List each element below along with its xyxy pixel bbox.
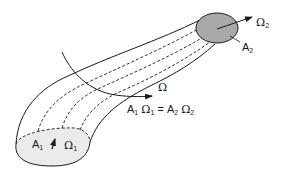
equation-label: A1 Ω1 = A2 Ω2 [127, 104, 194, 116]
streamline-3 [80, 42, 210, 130]
a2-label: A2 [242, 42, 253, 54]
flux-tube-diagram [0, 0, 285, 181]
omega-label: Ω [158, 82, 167, 93]
omega2-label: Ω2 [256, 17, 269, 29]
omega1-label: Ω1 [64, 140, 77, 152]
tube-outer-edge-left [16, 20, 200, 144]
end-cross-section [196, 13, 238, 43]
a1-label: A1 [32, 139, 43, 151]
